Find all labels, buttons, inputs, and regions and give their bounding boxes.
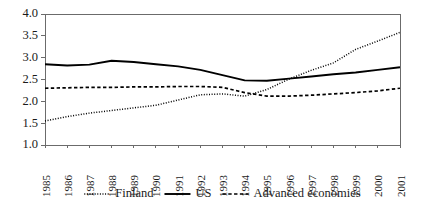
legend-label-advanced-economies: Advanced economies — [253, 186, 360, 200]
x-tick-label: 1986 — [62, 175, 74, 198]
legend-label-us: US — [195, 186, 211, 200]
y-tick-label: 2.0 — [22, 94, 38, 108]
x-tick-label: 2001 — [395, 175, 407, 197]
chart-container: 1.01.52.02.53.03.54.0 198519861987198819… — [0, 0, 425, 209]
y-tick-label: 2.5 — [22, 72, 38, 86]
series-line-finland — [45, 32, 400, 121]
y-tick-label: 4.0 — [22, 6, 38, 20]
y-tick-label: 1.5 — [22, 116, 38, 130]
y-tick-label: 1.0 — [22, 137, 38, 151]
y-tick-label: 3.5 — [22, 28, 38, 42]
x-tick-label: 2000 — [372, 175, 384, 198]
y-axis-ticks: 1.01.52.02.53.03.54.0 — [22, 6, 45, 151]
series-line-us — [45, 61, 400, 81]
y-tick-label: 3.0 — [22, 50, 38, 64]
legend-label-finland: Finland — [115, 186, 154, 200]
plot-area-border — [45, 14, 400, 145]
line-chart: 1.01.52.02.53.03.54.0 198519861987198819… — [0, 0, 425, 209]
x-tick-label: 1985 — [40, 175, 52, 198]
plot-frame — [45, 14, 400, 145]
data-series-group — [45, 32, 400, 121]
